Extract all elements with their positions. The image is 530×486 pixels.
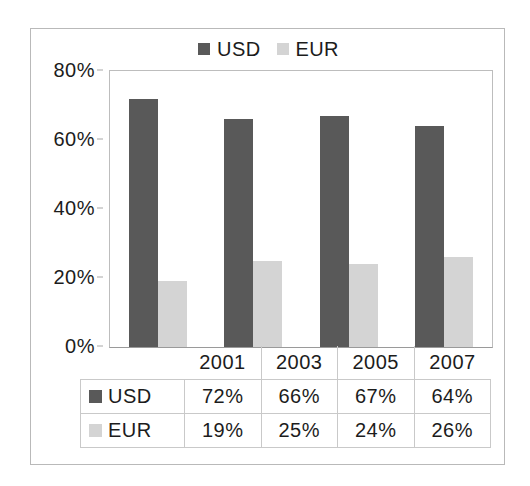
table-cell-usd-2005: 67% [338,380,415,414]
table-cell-usd-2003: 66% [261,380,338,414]
bar-eur-2003[interactable] [253,261,282,347]
y-tick-mark-60 [97,139,103,140]
y-axis: 80% 60% 40% 20% 0% [31,29,103,359]
bar-group-2007 [397,71,493,347]
bar-group-2005 [301,71,397,347]
table-header-2001: 2001 [185,346,262,380]
bar-group-2003 [206,71,302,347]
bar-group-2001 [110,71,206,347]
table-key-label-usd: USD [108,385,152,408]
bar-usd-2003[interactable] [224,119,253,347]
table-header-row: 2001 2003 2005 2007 [81,346,491,380]
table-key-usd: USD [81,380,185,414]
data-table: 2001 2003 2005 2007 USD 72% 66% 67% 64% [80,346,491,448]
table-header-2007: 2007 [414,346,491,380]
bars-layer [110,71,492,347]
y-tick-mark-20 [97,277,103,278]
plot-region: 80% 60% 40% 20% 0% [31,29,506,359]
plot-area [109,70,493,348]
y-tick-mark-40 [97,208,103,209]
y-tick-mark-80 [97,70,103,71]
table-row: USD 72% 66% 67% 64% [81,380,491,414]
table-swatch-eur [89,424,102,437]
table-corner-cell [81,346,185,380]
table-cell-usd-2001: 72% [185,380,262,414]
table-cell-eur-2005: 24% [338,414,415,448]
bar-eur-2007[interactable] [444,257,473,347]
table-key-eur: EUR [81,414,185,448]
table-cell-usd-2007: 64% [414,380,491,414]
bar-usd-2007[interactable] [415,126,444,347]
chart-frame: USD EUR 80% 60% 40% 20% 0% [30,28,505,465]
table-row: EUR 19% 25% 24% 26% [81,414,491,448]
bar-usd-2001[interactable] [129,99,158,347]
table-header-2003: 2003 [261,346,338,380]
table-header-2005: 2005 [338,346,415,380]
y-tick-label-60: 60% [53,128,95,151]
bar-eur-2001[interactable] [158,281,187,347]
table-cell-eur-2007: 26% [414,414,491,448]
bar-usd-2005[interactable] [320,116,349,347]
bar-eur-2005[interactable] [349,264,378,347]
y-tick-label-20: 20% [53,266,95,289]
y-tick-label-80: 80% [53,59,95,82]
table-swatch-usd [89,390,102,403]
table-cell-eur-2001: 19% [185,414,262,448]
y-tick-label-40: 40% [53,197,95,220]
table-cell-eur-2003: 25% [261,414,338,448]
table-key-label-eur: EUR [108,419,152,442]
